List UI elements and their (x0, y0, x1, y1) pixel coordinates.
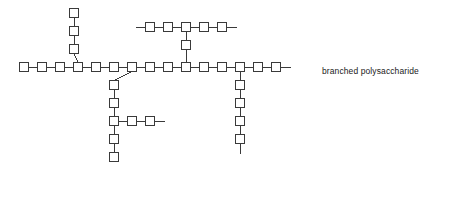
diagram-caption: branched polysaccharide (322, 66, 419, 76)
monomer-upper-left-branch-1 (70, 27, 79, 36)
figure-canvas: branched polysaccharide (0, 0, 456, 198)
monomer-upper-right-connector-0 (182, 41, 191, 50)
monomer-main-backbone-6 (128, 63, 137, 72)
bonds-layer (29, 18, 291, 154)
monomer-main-backbone-9 (182, 63, 191, 72)
monomer-lower-left-side-chain-0 (128, 117, 137, 126)
monomer-upper-left-branch-0 (70, 45, 79, 54)
polysaccharide-diagram (0, 0, 456, 198)
monomer-upper-left-branch-2 (70, 9, 79, 18)
monomer-main-backbone-3 (74, 63, 83, 72)
monomer-upper-right-chain-2 (182, 23, 191, 32)
monomer-main-backbone-0 (20, 63, 29, 72)
monomer-main-backbone-7 (146, 63, 155, 72)
monomer-main-backbone-2 (56, 63, 65, 72)
monomer-lower-left-branch-0 (110, 81, 119, 90)
monomer-main-backbone-14 (272, 63, 281, 72)
monomer-lower-left-branch-1 (110, 99, 119, 108)
monomer-main-backbone-13 (254, 63, 263, 72)
monomer-upper-right-chain-1 (164, 23, 173, 32)
monomer-lower-left-branch-4 (110, 153, 119, 162)
monomers-layer (20, 9, 281, 162)
monomer-main-backbone-5 (110, 63, 119, 72)
monomer-lower-right-branch-1 (236, 99, 245, 108)
monomer-lower-right-branch-3 (236, 135, 245, 144)
monomer-main-backbone-1 (38, 63, 47, 72)
monomer-upper-right-chain-3 (200, 23, 209, 32)
monomer-lower-left-side-chain-1 (146, 117, 155, 126)
monomer-main-backbone-4 (92, 63, 101, 72)
monomer-main-backbone-12 (236, 63, 245, 72)
monomer-upper-right-chain-0 (146, 23, 155, 32)
monomer-main-backbone-10 (200, 63, 209, 72)
monomer-lower-right-branch-0 (236, 81, 245, 90)
branch-bond-upper-left-branch (74, 54, 78, 63)
branch-bond-lower-left-branch (114, 72, 132, 81)
monomer-main-backbone-8 (164, 63, 173, 72)
monomer-lower-right-branch-2 (236, 117, 245, 126)
monomer-lower-left-branch-3 (110, 135, 119, 144)
monomer-main-backbone-11 (218, 63, 227, 72)
monomer-lower-left-branch-2 (110, 117, 119, 126)
monomer-upper-right-chain-4 (218, 23, 227, 32)
